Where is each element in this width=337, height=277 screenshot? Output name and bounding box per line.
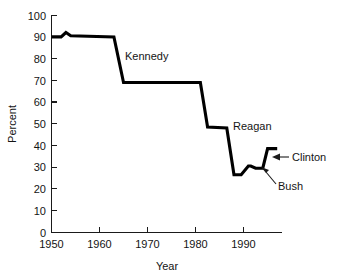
x-tick-label: 1950 [39, 238, 63, 250]
y-tick-label: 40 [34, 140, 46, 152]
y-tick-label: 50 [34, 118, 46, 130]
y-axis-title: Percent [6, 105, 18, 143]
x-axis-ticks [52, 227, 244, 233]
chart-container: 100 90 80 70 60 50 40 30 20 10 0 1950 19… [0, 0, 337, 277]
clinton-arrow-icon [272, 154, 280, 161]
bush-arrow-icon [261, 167, 269, 173]
annotation-kennedy: Kennedy [125, 50, 169, 62]
x-tick-label: 1960 [87, 238, 111, 250]
y-tick-label: 100 [28, 10, 46, 22]
annotation-bush: Bush [278, 180, 303, 192]
y-tick-label: 20 [34, 183, 46, 195]
annotation-clinton: Clinton [292, 151, 326, 163]
annotation-bush-group: Bush [261, 167, 303, 192]
y-tick-label: 90 [34, 31, 46, 43]
y-tick-label: 70 [34, 75, 46, 87]
y-axis-tick-labels: 100 90 80 70 60 50 40 30 20 10 0 [28, 10, 46, 239]
x-axis-tick-labels: 1950 1960 1970 1980 1990 [39, 238, 255, 250]
x-tick-label: 1990 [231, 238, 255, 250]
y-tick-label: 60 [34, 96, 46, 108]
y-tick-label: 80 [34, 53, 46, 65]
x-tick-label: 1980 [183, 238, 207, 250]
y-tick-label: 10 [34, 205, 46, 217]
annotation-reagan: Reagan [233, 120, 272, 132]
y-tick-label: 0 [40, 227, 46, 239]
x-tick-label: 1970 [135, 238, 159, 250]
x-axis-title: Year [156, 260, 179, 272]
line-chart: 100 90 80 70 60 50 40 30 20 10 0 1950 19… [0, 0, 337, 277]
y-axis-ticks [52, 15, 58, 232]
bush-leader-line [266, 172, 276, 184]
annotation-clinton-group: Clinton [272, 151, 326, 163]
y-tick-label: 30 [34, 161, 46, 173]
